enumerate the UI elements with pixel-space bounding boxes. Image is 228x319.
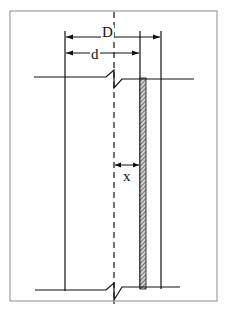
inner-diameter-label: d	[91, 46, 99, 62]
offset-dimension: x	[115, 163, 139, 185]
offset-label: x	[123, 168, 131, 184]
hatched-layer	[140, 78, 146, 289]
bottom-break-line	[35, 283, 180, 300]
inner-diameter-dimension: d	[66, 45, 139, 62]
pipe-cross-section-diagram: D d x	[0, 0, 228, 319]
outer-diameter-label: D	[102, 24, 113, 40]
top-break-line	[34, 70, 194, 88]
outer-diameter-dimension: D	[66, 24, 160, 40]
